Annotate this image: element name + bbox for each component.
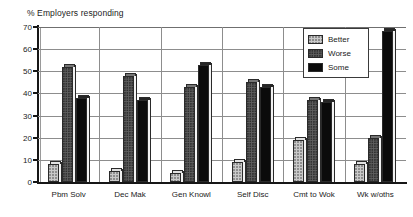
category-separator [283,27,284,182]
bar [321,99,335,182]
bar-face [354,164,365,182]
legend-item-better: Better [308,33,364,46]
bar-face [62,67,73,182]
bar-side [243,160,246,182]
y-tick-label: 10 [0,155,32,164]
legend-swatch-better-icon [308,35,323,44]
bar-side [379,136,382,182]
bar-side [195,85,198,182]
bar-face [170,173,181,182]
bar [307,97,321,182]
y-tick-label: 30 [0,111,32,120]
bar-face [260,87,271,182]
bar-side [73,65,76,182]
legend-label-worse: Worse [328,49,351,58]
bar-face [368,138,379,182]
y-tick-label: 40 [0,89,32,98]
bar [137,97,151,182]
bar-face [246,82,257,182]
bar-side [304,138,307,182]
bar-side [209,63,212,182]
bar-side [393,29,396,182]
bar-side [318,98,321,182]
legend-swatch-worse-icon [308,49,323,58]
bar-face [109,171,120,182]
chart-title: % Employers responding [27,8,124,18]
legend-item-some: Some [308,61,364,74]
bar-side [87,96,90,182]
bar-face [123,76,134,182]
y-tick-label: 70 [0,23,32,32]
bar [48,161,62,182]
bar-face [307,100,318,182]
bar-face [48,164,59,182]
y-tick-label: 60 [0,45,32,54]
legend-label-better: Better [328,35,349,44]
bar-face [198,65,209,182]
bar [76,95,90,182]
y-tick-label: 0 [0,178,32,187]
x-tick-label: Cmt to Wok [293,190,335,199]
bar-face [76,98,87,182]
bar [170,170,184,182]
chart-legend: Better Worse Some [303,28,369,78]
legend-item-worse: Worse [308,47,364,60]
bar-face [321,102,332,182]
bar-side [59,162,62,182]
legend-swatch-some-icon [308,63,323,72]
bar [260,84,274,182]
legend-label-some: Some [328,63,349,72]
bar-side [365,162,368,182]
x-tick-label: Dec Mak [114,190,146,199]
bar [232,159,246,182]
bar-side [148,98,151,182]
bar-chart: % Employers responding 010203040506070 P… [0,0,413,217]
bar-face [232,162,243,182]
x-tick-label: Gen Knowl [172,190,211,199]
bar [62,64,76,182]
category-separator [222,27,223,182]
bar-side [332,100,335,182]
x-tick-label: Wk w/oths [357,190,394,199]
category-separator [99,27,100,182]
bar-face [382,31,393,182]
bar [184,84,198,182]
bar-face [184,87,195,182]
x-tick-label: Pbm Solv [52,190,86,199]
bar [354,161,368,182]
bar [109,168,123,182]
x-tick-label: Self Disc [237,190,269,199]
bar [123,73,137,182]
bar-side [134,74,137,182]
bar-side [257,80,260,182]
bar [382,28,396,182]
bar-side [271,85,274,182]
bar [246,79,260,182]
bar-face [137,100,148,182]
y-tick-label: 50 [0,67,32,76]
x-axis-line [37,182,407,184]
category-separator [161,27,162,182]
bar-face [293,140,304,182]
bar [293,137,307,182]
bar [368,135,382,182]
bar [198,62,212,182]
y-tick-label: 20 [0,133,32,142]
